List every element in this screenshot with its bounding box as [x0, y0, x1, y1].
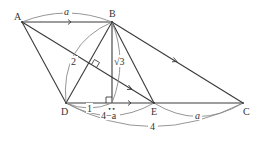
length-BH: √3: [114, 56, 125, 67]
length-labels: a 2 √3 1 4−a a 4: [63, 6, 202, 132]
label-A: A: [14, 11, 22, 22]
length-DC: 4: [150, 121, 155, 132]
length-BD: 2: [71, 56, 76, 67]
vertex-C: [242, 102, 244, 104]
vertex-E: [153, 102, 155, 104]
vertex-B: [111, 21, 113, 23]
length-EC: a: [195, 110, 200, 121]
right-angle-H-icon: [106, 97, 112, 103]
right-angle-BD-AE-icon: [92, 60, 100, 68]
geometry-figure: A B D H E C a 2 √3 1 4−a a 4: [0, 0, 262, 142]
length-DH: 1: [87, 103, 92, 114]
segment-AD: [22, 22, 66, 103]
length-DE: 4−a: [101, 110, 117, 121]
label-E: E: [151, 106, 157, 117]
label-B: B: [109, 8, 116, 19]
label-C: C: [243, 106, 250, 117]
length-AB: a: [64, 6, 69, 17]
vertex-D: [65, 102, 67, 104]
segment-BC: [112, 22, 243, 103]
segments: [22, 22, 243, 103]
label-D: D: [61, 106, 68, 117]
dimension-arcs: [22, 13, 243, 127]
segment-AE: [22, 22, 154, 103]
vertex-A: [21, 21, 23, 23]
point-labels: A B D H E C: [14, 8, 250, 117]
